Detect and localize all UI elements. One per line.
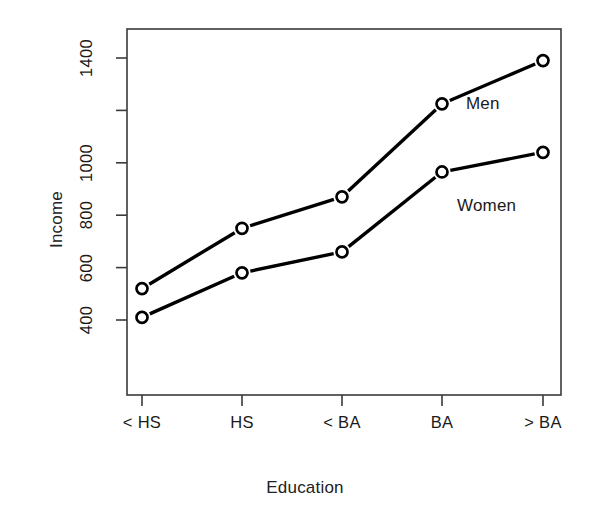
series-segment bbox=[250, 254, 333, 271]
y-tick-label: 600 bbox=[77, 253, 96, 281]
x-tick-label: < HS bbox=[123, 413, 161, 432]
x-tick-label: < BA bbox=[323, 413, 360, 432]
data-point-marker bbox=[237, 267, 248, 278]
data-point-marker bbox=[137, 283, 148, 294]
series-label-men: Men bbox=[466, 94, 500, 114]
y-axis-tick-marks bbox=[116, 58, 127, 320]
y-tick-label: 1400 bbox=[77, 39, 96, 77]
series-label-women: Women bbox=[457, 196, 516, 216]
y-tick-label: 1000 bbox=[77, 144, 96, 182]
x-tick-label: BA bbox=[431, 413, 454, 432]
x-tick-label: > BA bbox=[524, 413, 561, 432]
y-tick-label: 400 bbox=[77, 306, 96, 334]
series-segment bbox=[348, 110, 436, 191]
data-point-marker bbox=[337, 191, 348, 202]
data-point-marker bbox=[337, 246, 348, 257]
x-axis-tick-marks bbox=[142, 395, 543, 406]
data-point-marker bbox=[437, 98, 448, 109]
series-segment bbox=[250, 199, 334, 225]
series-segment bbox=[349, 177, 436, 246]
series-segment bbox=[150, 276, 234, 314]
data-point-marker bbox=[137, 312, 148, 323]
y-axis-title: Income bbox=[47, 191, 67, 248]
series-segment bbox=[149, 233, 234, 284]
data-point-marker bbox=[437, 166, 448, 177]
y-tick-label: 800 bbox=[77, 201, 96, 229]
income-education-line-chart: Income Education 14001000800600400 < HSH… bbox=[0, 0, 600, 521]
x-tick-label: HS bbox=[230, 413, 254, 432]
series-segment bbox=[450, 154, 534, 170]
data-point-marker bbox=[237, 223, 248, 234]
data-point-marker bbox=[538, 147, 549, 158]
data-point-marker bbox=[538, 55, 549, 66]
x-axis-title: Education bbox=[5, 478, 600, 498]
